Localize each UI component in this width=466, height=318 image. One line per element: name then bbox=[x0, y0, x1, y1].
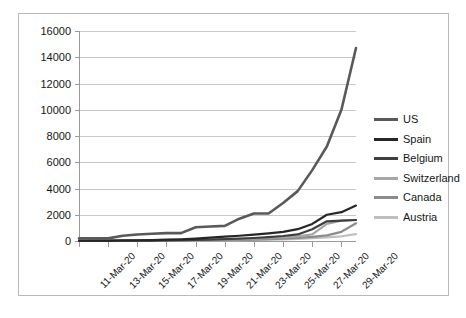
legend-swatch-austria bbox=[374, 216, 398, 219]
plot-area: 0200040006000800010000120001400016000 11… bbox=[79, 31, 356, 241]
x-tick-mark bbox=[254, 242, 255, 247]
legend-item-spain[interactable]: Spain bbox=[374, 130, 464, 150]
legend-label: Canada bbox=[403, 192, 442, 203]
x-tick-mark bbox=[312, 242, 313, 247]
legend-label: Switzerland bbox=[403, 173, 460, 184]
x-tick-mark bbox=[196, 242, 197, 247]
series-line-us bbox=[79, 48, 356, 238]
legend-swatch-switzerland bbox=[374, 177, 398, 180]
legend-label: Austria bbox=[403, 212, 437, 223]
legend-swatch-spain bbox=[374, 138, 398, 141]
y-axis-label: 0 bbox=[65, 236, 71, 247]
y-axis-label: 12000 bbox=[40, 78, 71, 89]
chart-frame: 0200040006000800010000120001400016000 11… bbox=[18, 13, 449, 296]
legend-item-austria[interactable]: Austria bbox=[374, 208, 464, 228]
x-tick-mark bbox=[166, 242, 167, 247]
legend-label: Spain bbox=[403, 134, 431, 145]
x-tick-mark bbox=[108, 242, 109, 247]
legend-swatch-us bbox=[374, 118, 398, 121]
legend-label: US bbox=[403, 114, 418, 125]
x-tick-mark bbox=[79, 242, 80, 247]
legend-item-us[interactable]: US bbox=[374, 110, 464, 130]
y-axis-label: 8000 bbox=[47, 131, 71, 142]
legend-label: Belgium bbox=[403, 153, 443, 164]
legend-item-switzerland[interactable]: Switzerland bbox=[374, 169, 464, 189]
chart-legend: USSpainBelgiumSwitzerlandCanadaAustria bbox=[374, 110, 464, 227]
y-axis-label: 4000 bbox=[47, 183, 71, 194]
x-tick-mark bbox=[137, 242, 138, 247]
legend-swatch-belgium bbox=[374, 157, 398, 160]
legend-swatch-canada bbox=[374, 196, 398, 199]
legend-item-canada[interactable]: Canada bbox=[374, 188, 464, 208]
y-axis-label: 2000 bbox=[47, 209, 71, 220]
series-lines bbox=[79, 31, 356, 241]
y-axis-label: 6000 bbox=[47, 157, 71, 168]
x-tick-mark bbox=[225, 242, 226, 247]
x-tick-mark bbox=[283, 242, 284, 247]
y-axis-label: 16000 bbox=[40, 26, 71, 37]
x-tick-mark bbox=[341, 242, 342, 247]
y-axis-label: 10000 bbox=[40, 104, 71, 115]
y-axis-label: 14000 bbox=[40, 52, 71, 63]
legend-item-belgium[interactable]: Belgium bbox=[374, 149, 464, 169]
